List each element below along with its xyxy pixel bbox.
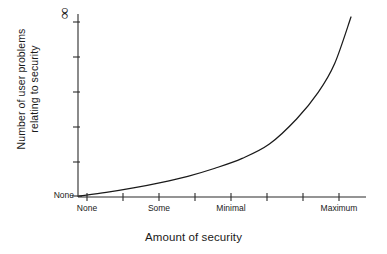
chart-figure: Number of user problems relating to secu…: [0, 0, 387, 254]
y-axis-title-line-2: relating to security: [28, 45, 41, 132]
x-tick-label-some: Some: [129, 203, 189, 213]
infinity-icon: ∞: [59, 8, 74, 20]
x-tick-label-minimal: Minimal: [201, 203, 261, 213]
plot-area: [0, 0, 387, 254]
y-axis-min-label: None: [46, 190, 74, 200]
x-tick-label-maximum: Maximum: [309, 203, 369, 213]
y-axis-title: Number of user problems relating to secu…: [11, 9, 45, 169]
data-series-line: [79, 17, 351, 196]
y-axis-title-line-1: Number of user problems: [15, 29, 28, 150]
x-axis-title: Amount of security: [0, 230, 387, 244]
y-axis-max-label: ∞: [58, 6, 74, 22]
y-axis-ticks: [72, 22, 82, 196]
x-tick-label-none: None: [57, 203, 117, 213]
